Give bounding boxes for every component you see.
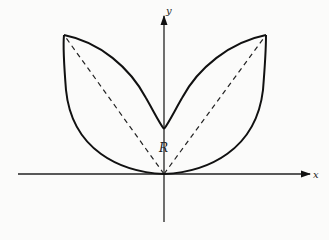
region-label: R (158, 141, 168, 155)
x-axis-label: x (313, 169, 319, 180)
right-upper-curve (164, 35, 266, 129)
y-axis-label: y (165, 5, 172, 16)
diagram-canvas: y x R (0, 0, 329, 240)
left-upper-curve (64, 35, 164, 129)
region-diagram: y x R (0, 0, 329, 240)
